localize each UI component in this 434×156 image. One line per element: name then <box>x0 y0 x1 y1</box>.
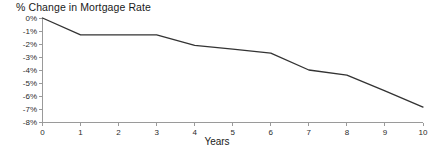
y-tick-label: -5% <box>23 79 37 88</box>
x-tick-marks <box>43 123 424 127</box>
y-tick-label: -3% <box>23 53 37 62</box>
y-tick-label: -1% <box>23 27 37 36</box>
y-axis: 0%-1%-2%-3%-4%-5%-6%-7%-8% <box>23 14 43 127</box>
mortgage-rate-line-chart: % Change in Mortgage Rate 0%-1%-2%-3%-4%… <box>0 0 434 156</box>
y-tick-marks <box>39 18 43 122</box>
y-tick-label: -6% <box>23 92 37 101</box>
y-tick-label: 0% <box>25 14 37 23</box>
data-series-line <box>43 18 424 107</box>
y-tick-label: -7% <box>23 105 37 114</box>
chart-plot-area: 0%-1%-2%-3%-4%-5%-6%-7%-8% 012345678910 <box>0 0 434 156</box>
x-axis-title: Years <box>0 136 434 147</box>
y-tick-label: -4% <box>23 66 37 75</box>
y-tick-labels: 0%-1%-2%-3%-4%-5%-6%-7%-8% <box>23 14 37 127</box>
y-tick-label: -2% <box>23 40 37 49</box>
y-tick-label: -8% <box>23 118 37 127</box>
x-axis: 012345678910 <box>40 123 428 138</box>
